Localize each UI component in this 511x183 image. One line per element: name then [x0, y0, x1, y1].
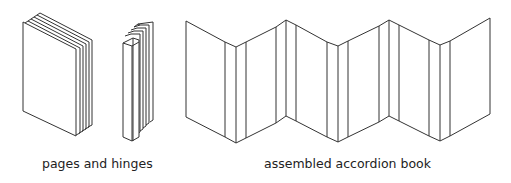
hinge-stack-illustration — [123, 22, 153, 141]
page-stack-illustration — [23, 13, 92, 136]
accordion-book-illustration — [186, 18, 490, 143]
assembled-accordion-book-label: assembled accordion book — [264, 156, 431, 171]
pages-and-hinges-label: pages and hinges — [42, 156, 153, 171]
